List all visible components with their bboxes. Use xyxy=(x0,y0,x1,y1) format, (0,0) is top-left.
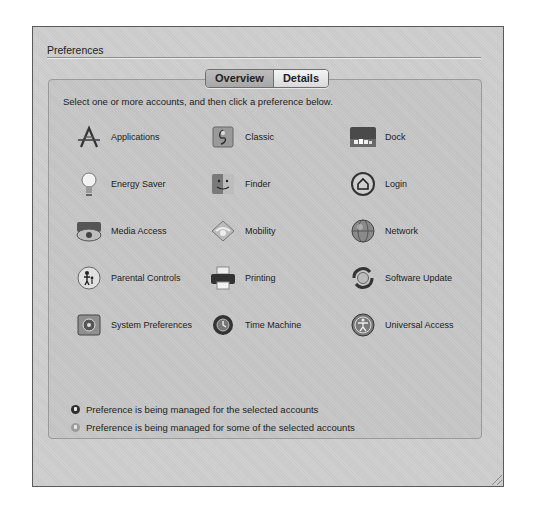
pref-media-access[interactable]: Media Access xyxy=(75,217,167,245)
pref-login[interactable]: Login xyxy=(349,170,407,198)
dock-icon xyxy=(349,124,377,150)
resize-grip[interactable] xyxy=(492,475,502,485)
legend-managed-all: Preference is being managed for the sele… xyxy=(71,404,318,415)
pref-label: Printing xyxy=(245,273,276,283)
pref-label: Dock xyxy=(385,132,406,142)
pref-label: Mobility xyxy=(245,226,276,236)
finder-icon xyxy=(209,171,237,197)
pref-label: Finder xyxy=(245,179,271,189)
pref-label: Applications xyxy=(111,132,160,142)
pref-mobility[interactable]: Mobility xyxy=(209,217,276,245)
pref-printing[interactable]: Printing xyxy=(209,264,276,292)
preferences-window: Preferences Overview Details Select one … xyxy=(32,26,504,487)
lightbulb-icon xyxy=(75,171,103,197)
parental-controls-icon xyxy=(75,265,103,291)
managed-full-icon xyxy=(71,405,80,414)
managed-partial-icon xyxy=(71,423,80,432)
pref-label: Classic xyxy=(245,132,274,142)
tab-overview[interactable]: Overview xyxy=(206,70,274,87)
app-store-a-icon xyxy=(75,124,103,150)
pref-label: Network xyxy=(385,226,418,236)
pref-parental-controls[interactable]: Parental Controls xyxy=(75,264,181,292)
pref-label: Universal Access xyxy=(385,320,454,330)
legend-managed-some: Preference is being managed for some of … xyxy=(71,422,355,433)
pref-system-preferences[interactable]: System Preferences xyxy=(75,311,192,339)
legend-label: Preference is being managed for the sele… xyxy=(86,404,318,415)
pref-label: Software Update xyxy=(385,273,452,283)
pref-label: Energy Saver xyxy=(111,179,166,189)
pref-network[interactable]: Network xyxy=(349,217,418,245)
software-update-icon xyxy=(349,265,377,291)
preference-grid: Applications Classic Dock Energy Saver xyxy=(75,123,475,373)
section-title: Preferences xyxy=(47,44,104,56)
pref-finder[interactable]: Finder xyxy=(209,170,271,198)
instructions-text: Select one or more accounts, and then cl… xyxy=(63,96,333,107)
pref-universal-access[interactable]: Universal Access xyxy=(349,311,454,339)
classic-icon xyxy=(209,124,237,150)
pref-time-machine[interactable]: Time Machine xyxy=(209,311,301,339)
view-segmented-control: Overview Details xyxy=(205,69,329,88)
pref-energy-saver[interactable]: Energy Saver xyxy=(75,170,166,198)
network-globe-icon xyxy=(349,218,377,244)
media-access-icon xyxy=(75,218,103,244)
pref-label: Login xyxy=(385,179,407,189)
pref-dock[interactable]: Dock xyxy=(349,123,406,151)
login-house-icon xyxy=(349,171,377,197)
tab-details[interactable]: Details xyxy=(274,70,328,87)
pref-label: Parental Controls xyxy=(111,273,181,283)
mobility-icon xyxy=(209,218,237,244)
pref-software-update[interactable]: Software Update xyxy=(349,264,452,292)
printer-icon xyxy=(209,265,237,291)
system-preferences-icon xyxy=(75,312,103,338)
pref-label: System Preferences xyxy=(111,320,192,330)
pref-label: Time Machine xyxy=(245,320,301,330)
time-machine-icon xyxy=(209,312,237,338)
pref-applications[interactable]: Applications xyxy=(75,123,160,151)
pref-label: Media Access xyxy=(111,226,167,236)
section-divider xyxy=(47,57,481,59)
universal-access-icon xyxy=(349,312,377,338)
legend-label: Preference is being managed for some of … xyxy=(86,422,355,433)
pref-classic[interactable]: Classic xyxy=(209,123,274,151)
